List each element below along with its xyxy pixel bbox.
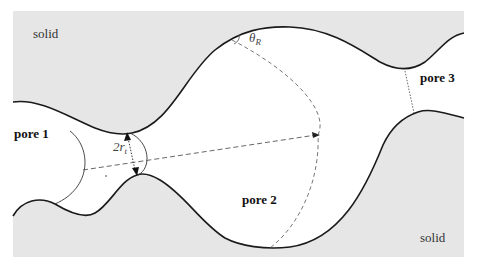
pore3-label: pore 3 bbox=[420, 70, 455, 86]
pore-network-diagram: solid solid pore 1 pore 2 pore 3 2rt θR bbox=[0, 0, 478, 271]
pore1-label: pore 1 bbox=[14, 126, 49, 142]
pore2-label: pore 2 bbox=[242, 192, 277, 208]
solid-label-bottom: solid bbox=[420, 230, 445, 246]
solid-label-top: solid bbox=[33, 26, 58, 42]
diagram-canvas bbox=[0, 0, 478, 271]
throat-radius-main: 2r bbox=[113, 139, 125, 154]
pore1-center-dot bbox=[105, 175, 107, 177]
throat-radius-label: 2rt bbox=[113, 139, 127, 156]
contact-angle-subscript: R bbox=[255, 37, 261, 47]
contact-angle-label: θR bbox=[249, 30, 261, 47]
throat-radius-subscript: t bbox=[125, 146, 128, 156]
